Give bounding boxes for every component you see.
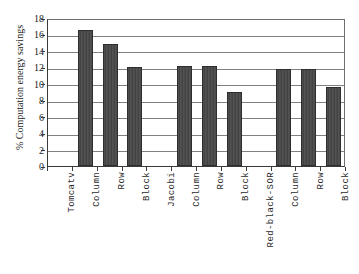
x-tick-mark <box>271 167 272 171</box>
y-tick-mark <box>41 117 45 118</box>
bar <box>202 66 217 166</box>
y-tick-label: 18 <box>4 14 44 24</box>
bar <box>103 44 118 166</box>
x-axis-labels: TomcatvColumnRowBlockJacobiColumnRowBloc… <box>47 172 345 272</box>
x-tick-mark <box>171 167 172 171</box>
x-tick-label: Row <box>212 172 222 189</box>
y-tick-mark <box>41 35 45 36</box>
y-tick-label: 16 <box>4 30 44 40</box>
y-tick-label: 6 <box>4 113 44 123</box>
y-tick-mark <box>41 51 45 52</box>
bar <box>127 67 142 166</box>
x-tick-label: Column <box>287 172 297 207</box>
y-tick-mark <box>41 150 45 151</box>
bar-chart: % Computation energy savings 02468101214… <box>0 0 359 274</box>
x-tick-label: Column <box>188 172 198 207</box>
x-tick-mark <box>221 167 222 171</box>
x-tick-mark <box>345 167 346 171</box>
x-tick-label: Jacobi <box>163 172 173 207</box>
y-tick-label: 8 <box>4 96 44 106</box>
x-tick-label: Tomcatv <box>63 172 73 213</box>
x-tick-mark <box>146 167 147 171</box>
x-tick-mark <box>47 167 48 171</box>
y-tick-label: 14 <box>4 47 44 57</box>
bar <box>78 30 93 166</box>
x-tick-mark <box>122 167 123 171</box>
y-tick-mark <box>41 84 45 85</box>
x-tick-mark <box>97 167 98 171</box>
y-tick-label: 0 <box>4 162 44 172</box>
bar <box>276 69 291 166</box>
x-tick-mark <box>196 167 197 171</box>
bar <box>177 66 192 166</box>
y-tick-mark <box>41 19 45 20</box>
x-tick-label: Block <box>337 172 347 201</box>
y-axis-ticks: 024681012141618 <box>0 19 44 167</box>
y-tick-label: 2 <box>4 146 44 156</box>
x-tick-label: Column <box>88 172 98 207</box>
x-tick-mark <box>246 167 247 171</box>
y-tick-label: 10 <box>4 80 44 90</box>
x-tick-mark <box>295 167 296 171</box>
x-tick-label: Row <box>113 172 123 189</box>
bar <box>326 87 341 166</box>
y-tick-label: 4 <box>4 129 44 139</box>
bar <box>227 92 242 166</box>
x-tick-label: Block <box>237 172 247 201</box>
x-tick-mark <box>320 167 321 171</box>
y-tick-label: 12 <box>4 63 44 73</box>
y-tick-mark <box>41 167 45 168</box>
plot-area <box>47 19 345 167</box>
x-tick-label: Row <box>312 172 322 189</box>
y-tick-mark <box>41 134 45 135</box>
bar <box>301 69 316 166</box>
x-tick-mark <box>72 167 73 171</box>
y-tick-mark <box>41 101 45 102</box>
x-tick-label: Block <box>138 172 148 201</box>
y-tick-mark <box>41 68 45 69</box>
x-tick-label: Red-black-SOR <box>262 172 272 247</box>
